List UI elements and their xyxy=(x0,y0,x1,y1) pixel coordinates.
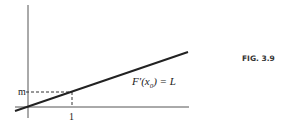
figure-caption: FIG. 3.9 xyxy=(242,54,275,63)
line-label: F′(x0) = L xyxy=(131,75,176,90)
figure-diagram: m 1 F′(x0) = L FIG. 3.9 xyxy=(0,0,296,124)
x-tick-label-1: 1 xyxy=(69,111,74,122)
line-label-prefix: F′(x xyxy=(131,75,150,88)
y-tick-label-m: m xyxy=(18,86,26,97)
line-label-suffix: ) = L xyxy=(152,75,176,88)
